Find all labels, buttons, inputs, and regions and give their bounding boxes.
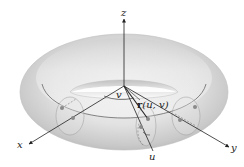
r-vector-args: (u, v) xyxy=(142,99,168,110)
z-axis-label: z xyxy=(121,8,126,18)
u-label: u xyxy=(149,152,155,162)
y-axis-label: y xyxy=(231,143,237,153)
v-label: v xyxy=(116,90,122,100)
x-axis-label: x xyxy=(17,140,23,150)
r-vector-label: r(u, v) xyxy=(137,100,169,110)
torus-figure: z x y u v r(u, v) xyxy=(0,0,244,167)
torus-diagram-svg xyxy=(0,0,244,167)
